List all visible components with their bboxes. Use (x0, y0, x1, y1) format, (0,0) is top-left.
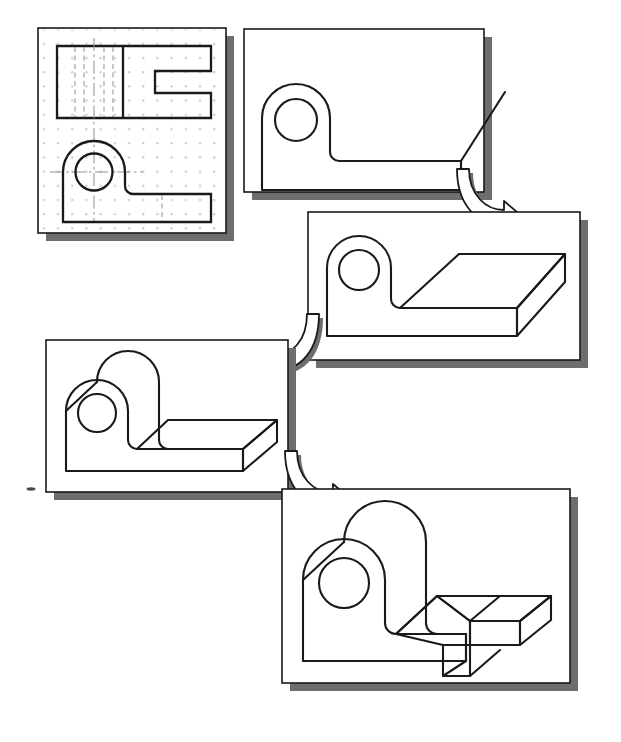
panel-4-boss-extruded[interactable] (46, 340, 296, 500)
panel-3-base-plate-extruded[interactable] (308, 212, 588, 368)
panel-1-orthographic-multiview-drawing[interactable] (38, 28, 234, 241)
panel-5-finished-solid-with-slot[interactable] (282, 489, 578, 691)
panel-4-card (46, 340, 288, 492)
construction-sequence-illustration (0, 0, 621, 742)
scan-speck (27, 487, 36, 490)
panel-2-card (244, 29, 484, 192)
figure-canvas: Solid modeling construction sequence Fiv… (0, 0, 621, 742)
panel-1-dot-grid (40, 30, 225, 232)
